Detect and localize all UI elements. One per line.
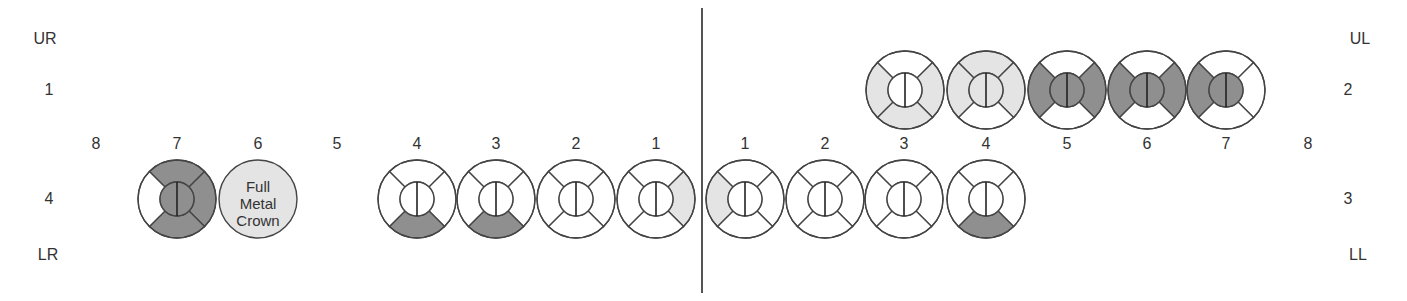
- tooth-upper-left-6: [1106, 49, 1188, 131]
- tooth-number-left-3: 3: [900, 135, 909, 153]
- tooth-number-right-5: 5: [333, 135, 342, 153]
- crown-label: Crown: [236, 212, 279, 229]
- tooth-lower-left-2: [784, 158, 866, 240]
- side-number-left-upper: 1: [45, 81, 54, 99]
- tooth-number-right-4: 4: [413, 135, 422, 153]
- tooth-number-right-3: 3: [492, 135, 501, 153]
- tooth-number-left-5: 5: [1063, 135, 1072, 153]
- tooth-number-left-1: 1: [741, 135, 750, 153]
- tooth-upper-left-7: [1185, 49, 1267, 131]
- tooth-lower-right-1: [615, 158, 697, 240]
- tooth-lower-right-6: FullMetalCrown: [217, 158, 299, 240]
- tooth-lower-left-1: [704, 158, 786, 240]
- quadrant-label-lower-right: LR: [38, 246, 58, 264]
- tooth-number-right-8: 8: [92, 135, 101, 153]
- tooth-upper-left-5: [1026, 49, 1108, 131]
- tooth-lower-right-2: [535, 158, 617, 240]
- tooth-lower-left-4: [945, 158, 1027, 240]
- tooth-number-right-7: 7: [173, 135, 182, 153]
- tooth-number-right-1: 1: [652, 135, 661, 153]
- tooth-lower-right-7: [136, 158, 218, 240]
- tooth-number-right-2: 2: [572, 135, 581, 153]
- quadrant-label-lower-left: LL: [1349, 246, 1367, 264]
- tooth-number-left-4: 4: [982, 135, 991, 153]
- tooth-upper-left-4: [945, 49, 1027, 131]
- side-number-left-lower: 4: [45, 190, 54, 208]
- crown-label: Metal: [240, 195, 277, 212]
- tooth-upper-left-3: [864, 49, 946, 131]
- tooth-number-left-7: 7: [1222, 135, 1231, 153]
- side-number-right-upper: 2: [1344, 81, 1353, 99]
- crown-label: Full: [246, 178, 270, 195]
- tooth-number-left-6: 6: [1143, 135, 1152, 153]
- quadrant-label-upper-left: UL: [1350, 30, 1370, 48]
- tooth-number-left-8: 8: [1304, 135, 1313, 153]
- tooth-number-right-6: 6: [254, 135, 263, 153]
- tooth-lower-right-4: [376, 158, 458, 240]
- side-number-right-lower: 3: [1344, 190, 1353, 208]
- quadrant-label-upper-right: UR: [33, 30, 56, 48]
- midline-divider: [701, 8, 703, 293]
- tooth-number-left-2: 2: [821, 135, 830, 153]
- tooth-lower-right-3: [455, 158, 537, 240]
- tooth-lower-left-3: [863, 158, 945, 240]
